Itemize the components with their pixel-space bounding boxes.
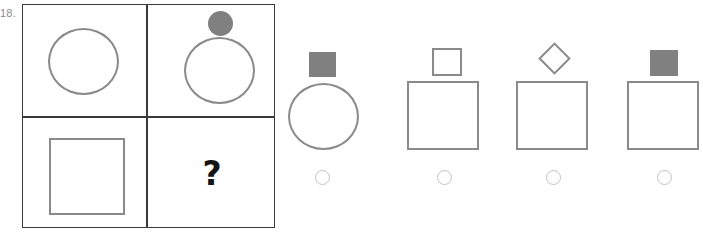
matrix-grid: ? xyxy=(22,4,275,228)
square-filled-icon xyxy=(650,50,678,76)
answer-option-a[interactable] xyxy=(282,0,368,235)
answer-option-b-figure[interactable] xyxy=(401,0,487,160)
diamond-outline-icon xyxy=(538,42,571,75)
answer-radio-a[interactable] xyxy=(315,170,330,185)
circle-outline-icon xyxy=(184,37,255,104)
square-outline-icon xyxy=(627,81,699,150)
matrix-cell-top-right xyxy=(148,5,276,116)
answer-option-d-figure[interactable] xyxy=(621,0,703,160)
answer-option-c-figure[interactable] xyxy=(511,0,597,160)
circle-outline-icon xyxy=(288,83,359,150)
answer-radio-d[interactable] xyxy=(657,170,672,185)
answer-option-c[interactable] xyxy=(511,0,597,235)
answer-radio-c[interactable] xyxy=(546,170,561,185)
matrix-cell-bottom-left xyxy=(23,118,146,229)
answer-option-d[interactable] xyxy=(621,0,703,235)
answer-option-a-figure[interactable] xyxy=(282,0,368,160)
square-filled-icon xyxy=(309,52,336,77)
square-outline-icon xyxy=(516,81,588,150)
square-outline-icon xyxy=(407,81,479,150)
square-outline-icon xyxy=(432,48,462,76)
matrix-cell-bottom-right: ? xyxy=(148,118,276,229)
matrix-cell-top-left xyxy=(23,5,146,116)
circle-outline-icon xyxy=(48,28,119,95)
question-mark-marker: ? xyxy=(148,118,276,229)
square-outline-icon xyxy=(49,138,125,215)
answer-option-b[interactable] xyxy=(401,0,487,235)
circle-filled-icon xyxy=(208,11,233,36)
answer-radio-b[interactable] xyxy=(437,170,452,185)
item-number-label: 18. xyxy=(0,7,22,19)
